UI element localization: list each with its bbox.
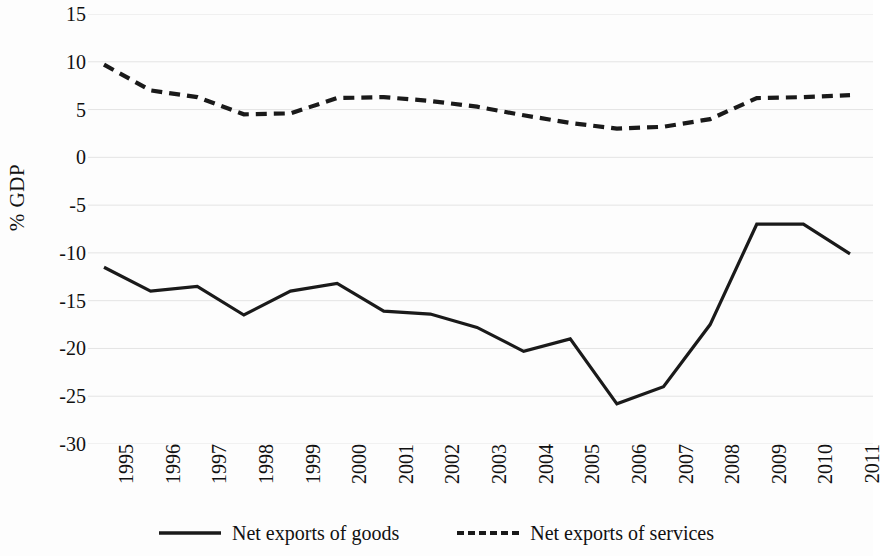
legend-label: Net exports of services xyxy=(530,523,714,543)
data-series-group xyxy=(104,65,850,404)
y-tick-label: -10 xyxy=(34,243,86,263)
legend-label: Net exports of goods xyxy=(232,523,399,543)
y-axis-tick-labels: 151050-5-10-15-20-25-30 xyxy=(0,0,86,460)
x-tick-label: 2003 xyxy=(488,444,510,510)
series-line-net-exports-of-services xyxy=(104,65,850,129)
x-tick-label: 1997 xyxy=(208,444,230,510)
x-tick-label: 2004 xyxy=(535,444,557,510)
chart-legend: Net exports of goodsNet exports of servi… xyxy=(0,516,873,550)
x-tick-label: 2002 xyxy=(441,444,463,510)
y-tick-label: -20 xyxy=(34,338,86,358)
x-tick-label: 2011 xyxy=(861,444,883,510)
x-tick-label: 1995 xyxy=(115,444,137,510)
y-tick-label: 10 xyxy=(34,52,86,72)
series-line-net-exports-of-goods xyxy=(104,224,850,404)
x-tick-label: 2010 xyxy=(814,444,836,510)
legend-entry: Net exports of goods xyxy=(159,523,399,543)
x-tick-label: 2005 xyxy=(581,444,603,510)
y-tick-label: 0 xyxy=(34,147,86,167)
chart-plot-svg xyxy=(88,14,873,444)
x-tick-label: 2000 xyxy=(348,444,370,510)
plot-area xyxy=(88,14,873,444)
x-tick-label: 2001 xyxy=(395,444,417,510)
y-tick-label: 15 xyxy=(34,4,86,24)
legend-dashed-line-icon xyxy=(457,527,519,539)
y-tick-label: -5 xyxy=(34,195,86,215)
x-tick-label: 1996 xyxy=(162,444,184,510)
x-axis-tick-labels: 1995199619971998199920002001200220032004… xyxy=(88,444,873,510)
x-tick-label: 1998 xyxy=(255,444,277,510)
y-tick-label: 5 xyxy=(34,100,86,120)
x-tick-label: 2006 xyxy=(628,444,650,510)
legend-entry: Net exports of services xyxy=(457,523,714,543)
y-tick-label: -30 xyxy=(34,434,86,454)
x-tick-label: 2007 xyxy=(675,444,697,510)
x-tick-label: 1999 xyxy=(302,444,324,510)
x-tick-label: 2009 xyxy=(768,444,790,510)
x-tick-label: 2008 xyxy=(721,444,743,510)
y-tick-label: -25 xyxy=(34,386,86,406)
y-tick-label: -15 xyxy=(34,291,86,311)
legend-solid-line-icon xyxy=(159,527,221,539)
